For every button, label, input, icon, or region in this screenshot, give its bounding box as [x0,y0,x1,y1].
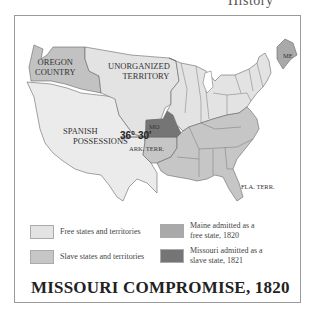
label-oregon-line1: OREGON [35,57,76,67]
page-header-fragment: History [228,0,274,9]
us-map [15,16,302,226]
legend-label-slave: Slave states and territories [60,252,144,262]
label-unorganized-line1: UNORGANIZED [108,61,170,71]
legend-item-free: Free states and territories [30,225,141,239]
label-oregon-line2: COUNTRY [35,67,76,77]
legend-missouri-line2: slave state, 1821 [190,256,263,266]
label-spanish-possessions: SPANISH POSSESSIONS [63,126,128,146]
legend-item-missouri: Missouri admitted as a slave state, 1821 [160,246,263,266]
legend-swatch-maine [160,224,184,238]
legend-label-missouri: Missouri admitted as a slave state, 1821 [190,246,263,266]
label-oregon-country: OREGON COUNTRY [35,57,76,77]
legend-label-maine: Maine admitted as a free state, 1820 [190,221,255,241]
legend-item-slave: Slave states and territories [30,250,144,264]
label-spanish-line1: SPANISH [63,126,128,136]
legend-maine-line2: free state, 1820 [190,231,255,241]
map-figure-frame: OREGON COUNTRY UNORGANIZED TERRITORY SPA… [14,15,301,303]
label-arkansas-territory: ARK. TERR. [129,144,164,154]
label-florida-territory: FLA. TERR. [241,182,275,192]
legend-label-free: Free states and territories [60,227,141,237]
legend-swatch-free [30,225,54,239]
legend-free-text: Free states and territories [60,227,141,237]
label-latitude-36-30: 36° 30' [120,131,151,141]
label-unorganized-territory: UNORGANIZED TERRITORY [108,61,170,81]
label-maine: ME [283,51,293,61]
label-spanish-line2: POSSESSIONS [63,136,128,146]
legend-maine-line1: Maine admitted as a [190,221,255,231]
figure-title: MISSOURI COMPROMISE, 1820 [31,278,290,298]
legend-swatch-slave [30,250,54,264]
legend-swatch-missouri [160,249,184,263]
legend-missouri-line1: Missouri admitted as a [190,246,263,256]
label-unorganized-line2: TERRITORY [108,71,170,81]
legend-item-maine: Maine admitted as a free state, 1820 [160,221,255,241]
legend-slave-text: Slave states and territories [60,252,144,262]
